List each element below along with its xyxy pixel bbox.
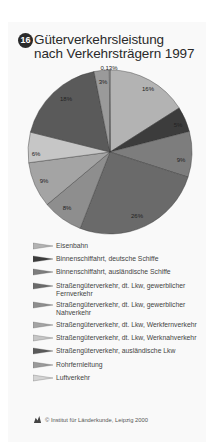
legend-label: Rohrfernleitung — [56, 361, 102, 369]
institute-logo-icon — [33, 415, 42, 424]
legend-item: Binnenschiffahrt, deutsche Schiffe — [33, 255, 211, 268]
legend-label: Straßengüterverkehr, dt. Lkw, gewerblich… — [56, 301, 185, 317]
legend-swatch-icon — [33, 255, 53, 263]
legend-label: Binnenschiffahrt, ausländische Schiffe — [56, 268, 171, 276]
slice-label: 26% — [131, 213, 144, 219]
legend-swatch-icon — [33, 282, 53, 290]
slice-label: 6% — [32, 151, 41, 157]
legend-label: Straßengüterverkehr, dt. Lkw, Werknahver… — [56, 334, 196, 342]
legend-swatch-icon — [33, 268, 53, 276]
legend-swatch-icon — [33, 374, 53, 382]
legend-item: Rohrfernleitung — [33, 361, 211, 374]
legend-swatch-icon — [33, 301, 53, 309]
slice-label: 16% — [142, 86, 155, 92]
legend-item: Straßengüterverkehr, ausländische Lkw — [33, 347, 211, 361]
legend: EisenbahnBinnenschiffahrt, deutsche Schi… — [33, 242, 211, 387]
credit-text: © Institut für Länderkunde, Leipzig 2000 — [45, 417, 148, 423]
legend-item: Straßengüterverkehr, dt. Lkw, Werkfernve… — [33, 321, 211, 334]
legend-label: Straßengüterverkehr, ausländische Lkw — [56, 347, 175, 355]
slice-label: 9% — [177, 157, 186, 163]
slice-label: 5% — [174, 122, 183, 128]
legend-swatch-icon — [33, 347, 53, 355]
legend-label: Straßengüterverkehr, dt. Lkw, gewerblich… — [56, 282, 185, 298]
legend-swatch-icon — [33, 242, 53, 250]
slice-label: 18% — [60, 96, 73, 102]
legend-item: Eisenbahn — [33, 242, 211, 255]
legend-swatch-icon — [33, 361, 53, 369]
legend-swatch-icon — [33, 334, 53, 342]
slice-label: 0,13% — [100, 65, 118, 71]
legend-label: Luftverkehr — [56, 374, 90, 382]
legend-swatch-icon — [33, 321, 53, 329]
legend-item: Straßengüterverkehr, dt. Lkw, Werknahver… — [33, 334, 211, 347]
legend-item: Binnenschiffahrt, ausländische Schiffe — [33, 268, 211, 282]
legend-label: Eisenbahn — [56, 242, 88, 250]
legend-label: Straßengüterverkehr, dt. Lkw, Werkfernve… — [56, 321, 197, 329]
credit-line: © Institut für Länderkunde, Leipzig 2000 — [33, 415, 148, 424]
slice-label: 8% — [63, 205, 72, 211]
slice-label: 3% — [99, 79, 108, 85]
legend-label: Binnenschiffahrt, deutsche Schiffe — [56, 255, 159, 263]
slice-label: 9% — [40, 178, 49, 184]
legend-item: Luftverkehr — [33, 374, 211, 387]
pie-slices — [28, 70, 192, 234]
legend-item: Straßengüterverkehr, dt. Lkw, gewerblich… — [33, 282, 211, 301]
legend-item: Straßengüterverkehr, dt. Lkw, gewerblich… — [33, 301, 211, 321]
